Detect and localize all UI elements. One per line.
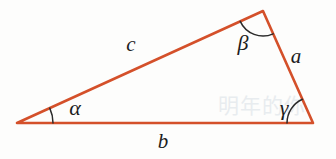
side-label-a: a <box>291 46 302 67</box>
gamma-angle-arc <box>287 99 302 123</box>
angle-label-gamma: γ <box>280 97 289 119</box>
side-label-c: c <box>126 34 135 55</box>
angle-label-alpha: α <box>69 97 81 119</box>
geometry-figure: 明年的你 c a b α β γ <box>0 0 336 159</box>
triangle-outline <box>17 11 313 123</box>
side-label-b: b <box>158 131 169 152</box>
angle-label-beta: β <box>238 32 249 54</box>
alpha-angle-arc <box>50 108 53 123</box>
